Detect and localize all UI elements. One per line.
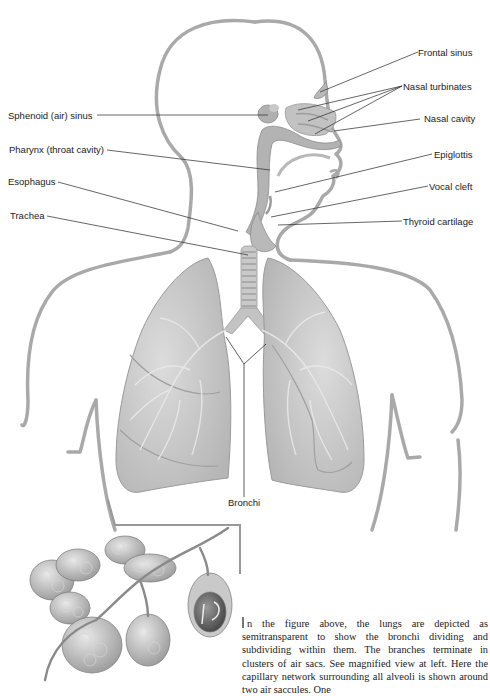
- label-trachea: Trachea: [10, 210, 45, 221]
- label-pharynx: Pharynx (throat cavity): [9, 144, 104, 155]
- label-bronchi: Bronchi: [228, 497, 260, 508]
- label-nasal-turbinates: Nasal turbinates: [403, 81, 472, 92]
- right-lung: [262, 258, 364, 492]
- label-vocal-cleft: Vocal cleft: [429, 181, 472, 192]
- label-sphenoid-sinus: Sphenoid (air) sinus: [8, 110, 93, 121]
- alveoli-inset: [30, 528, 232, 680]
- label-nasal-cavity: Nasal cavity: [424, 113, 475, 124]
- label-frontal-sinus: Frontal sinus: [418, 47, 472, 58]
- label-epiglottis: Epiglottis: [434, 149, 473, 160]
- caption-text: n the figure above, the lungs are depict…: [242, 618, 488, 695]
- drop-initial-marker: [242, 617, 244, 628]
- bronchi-leader-lines: [226, 337, 266, 497]
- left-lung: [116, 258, 231, 492]
- label-leader-lines: [47, 52, 432, 255]
- figure-caption: n the figure above, the lungs are depict…: [242, 617, 488, 696]
- label-thyroid-cartilage: Thyroid cartilage: [403, 216, 473, 227]
- label-esophagus: Esophagus: [8, 176, 56, 187]
